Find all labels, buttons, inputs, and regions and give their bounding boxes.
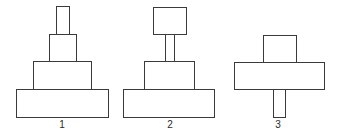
bottom-stem — [273, 89, 286, 118]
middle-block — [144, 61, 195, 90]
third-block — [33, 61, 92, 90]
block-stack-diagram: 1 2 3 — [0, 0, 338, 137]
figure-label: 1 — [59, 120, 65, 130]
figure-label: 3 — [275, 120, 281, 130]
top-square-block — [263, 35, 297, 63]
base-block — [16, 89, 109, 118]
narrow-stem — [165, 34, 175, 62]
wide-block — [234, 62, 325, 90]
top-narrow-block — [56, 6, 70, 35]
second-block — [49, 34, 77, 62]
figure-label: 2 — [167, 120, 173, 130]
top-square-block — [153, 7, 187, 35]
base-block — [123, 89, 215, 118]
